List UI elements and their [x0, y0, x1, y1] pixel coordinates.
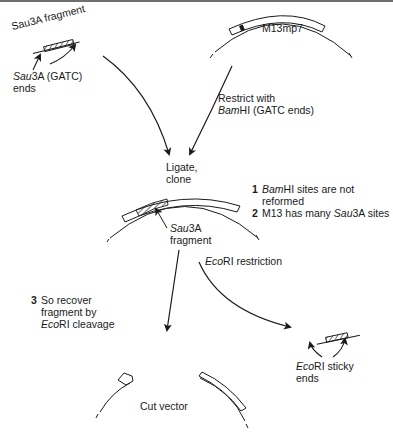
label-ecori-sticky-ends: EcoRI sticky ends — [296, 360, 354, 384]
note-3: 3So recover fragment by EcoRI cleavage — [31, 294, 115, 330]
label-inserted-sau3a-fragment: Sau3A fragment — [170, 222, 211, 246]
cut-vector-right-arm — [199, 372, 248, 428]
label-m13mp7: M13mp7 — [262, 22, 303, 34]
arrow-fragment-to-ligate — [103, 56, 169, 154]
label-ligate-clone: Ligate, clone — [166, 161, 198, 185]
ecori-end-arrow-right — [333, 339, 345, 357]
arrow-to-cut-vector — [167, 250, 179, 330]
arrow-ecori-restriction — [199, 262, 290, 327]
note-2: 2M13 has many Sau3A sites — [252, 207, 389, 219]
label-cut-vector: Cut vector — [140, 400, 188, 412]
ecori-end-arrow-left — [310, 343, 322, 357]
arrow-to-inserted-fragment — [156, 209, 167, 228]
label-restrict-bamhi: Restrict with BamHI (GATC ends) — [218, 92, 314, 116]
cut-vector-left-arm — [96, 373, 133, 418]
sau3a-end-arrow-left — [33, 55, 40, 70]
sau3a-fragment-top — [32, 38, 80, 54]
label-sau3a-ends: Sau3A (GATC) ends — [13, 70, 82, 94]
note-1: 1BamHI sites are not reformed — [252, 183, 354, 207]
label-ecori-restriction: EcoRI restriction — [205, 255, 282, 267]
ecori-fragment — [316, 330, 360, 344]
